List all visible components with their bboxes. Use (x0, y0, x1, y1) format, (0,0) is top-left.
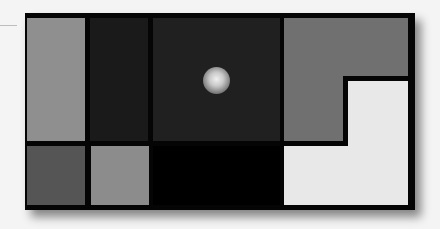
black-frame (25, 13, 415, 210)
left-tall-panel (27, 18, 85, 141)
right-white-lower-panel (284, 146, 408, 205)
dark-column-panel (90, 18, 148, 141)
bottom-left-dark-gray-panel (27, 146, 85, 205)
bottom-center-black-panel (153, 146, 280, 205)
right-white-upper-panel (348, 81, 408, 146)
center-dark-panel (153, 18, 280, 141)
glowing-sphere-icon (203, 67, 230, 94)
bottom-mid-gray-panel (91, 146, 149, 205)
margin-rule-line (0, 25, 17, 26)
right-gray-left-panel (284, 76, 343, 141)
right-gray-top-panel (284, 18, 408, 76)
